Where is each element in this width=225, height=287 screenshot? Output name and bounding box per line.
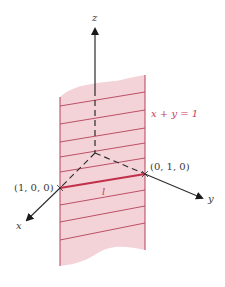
point-label-1-0-0: (1, 0, 0) xyxy=(14,182,54,193)
x-axis-label: x xyxy=(16,220,22,231)
point-label-0-1-0: (0, 1, 0) xyxy=(150,161,190,172)
plane-equation-label: x + y = 1 xyxy=(151,108,198,119)
y-axis xyxy=(145,174,202,198)
plane-diagram: z x y x + y = 1 l (1, 0, 0) (0, 1, 0) xyxy=(0,0,225,287)
z-axis-label: z xyxy=(91,12,98,23)
line-l-label: l xyxy=(102,186,105,197)
y-axis-label: y xyxy=(207,193,214,204)
